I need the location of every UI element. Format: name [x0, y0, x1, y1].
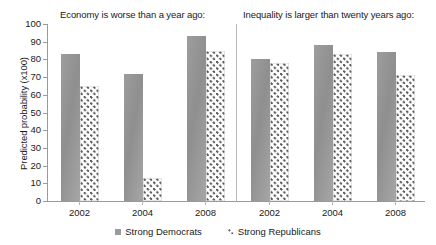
- y-tick-mark: [43, 95, 47, 96]
- x-tick-label: 2008: [364, 207, 427, 218]
- x-tick-label: 2004: [301, 207, 364, 218]
- y-tick-mark: [43, 148, 47, 149]
- bar-chart: Predicted probability (x100) 10090807060…: [0, 0, 436, 245]
- y-tick-mark: [43, 42, 47, 43]
- x-tick-label: 2002: [238, 207, 301, 218]
- bar-group: 2004: [111, 24, 174, 201]
- y-tick-label: 20: [3, 161, 41, 171]
- bars-wrap: [48, 24, 111, 201]
- x-tick-mark: [395, 201, 396, 205]
- bar-group: 2002: [238, 24, 301, 201]
- y-tick-label: 30: [3, 143, 41, 153]
- bar-group: 2008: [364, 24, 427, 201]
- x-tick-mark: [79, 201, 80, 205]
- bars-wrap: [301, 24, 364, 201]
- y-tick-label: 10: [3, 179, 41, 189]
- plot-area: 1009080706050403020100 20022004200820022…: [47, 24, 425, 202]
- legend-label: Strong Democrats: [125, 226, 202, 237]
- bar-strong-democrats: [124, 74, 143, 201]
- legend-label: Strong Republicans: [238, 226, 321, 237]
- panel-title-economy: Economy is worse than a year ago:: [60, 9, 205, 20]
- bar-group: 2004: [301, 24, 364, 201]
- y-tick-label: 60: [3, 90, 41, 100]
- panel-title-inequality: Inequality is larger than twenty years a…: [243, 9, 414, 20]
- y-tick-mark: [43, 77, 47, 78]
- bar-strong-republicans: [333, 54, 352, 201]
- bars-wrap: [238, 24, 301, 201]
- y-tick-label: 100: [3, 19, 41, 29]
- x-tick-label: 2004: [111, 207, 174, 218]
- bar-strong-republicans: [143, 178, 162, 201]
- bars-wrap: [111, 24, 174, 201]
- y-tick-label: 90: [3, 37, 41, 47]
- bars-wrap: [174, 24, 237, 201]
- bars-wrap: [364, 24, 427, 201]
- bar-strong-democrats: [187, 36, 206, 201]
- y-tick-label: 80: [3, 55, 41, 65]
- x-tick-label: 2008: [174, 207, 237, 218]
- bar-group: 2002: [48, 24, 111, 201]
- bar-strong-democrats: [61, 54, 80, 201]
- bar-strong-democrats: [314, 45, 333, 201]
- y-tick-label: 40: [3, 125, 41, 135]
- y-tick-mark: [43, 130, 47, 131]
- x-tick-mark: [269, 201, 270, 205]
- bar-strong-republicans: [270, 63, 289, 201]
- bar-strong-democrats: [377, 52, 396, 201]
- legend-item: Strong Republicans: [228, 226, 321, 237]
- bar-strong-republicans: [80, 86, 99, 201]
- legend-swatch-dotted-icon: [228, 229, 234, 235]
- y-tick-mark: [43, 113, 47, 114]
- bar-strong-republicans: [396, 75, 415, 201]
- chart-legend: Strong DemocratsStrong Republicans: [0, 226, 436, 237]
- bar-strong-republicans: [206, 51, 225, 201]
- x-tick-label: 2002: [48, 207, 111, 218]
- legend-item: Strong Democrats: [115, 226, 202, 237]
- legend-swatch-solid-icon: [115, 229, 121, 235]
- y-tick-mark: [43, 183, 47, 184]
- y-tick-mark: [43, 166, 47, 167]
- y-tick-label: 50: [3, 108, 41, 118]
- y-tick-mark: [43, 201, 47, 202]
- x-tick-mark: [332, 201, 333, 205]
- bar-strong-democrats: [251, 59, 270, 201]
- x-tick-mark: [142, 201, 143, 205]
- y-tick-label: 0: [3, 196, 41, 206]
- x-tick-mark: [205, 201, 206, 205]
- y-tick-mark: [43, 59, 47, 60]
- bar-group: 2008: [174, 24, 237, 201]
- y-tick-label: 70: [3, 72, 41, 82]
- y-tick-mark: [43, 24, 47, 25]
